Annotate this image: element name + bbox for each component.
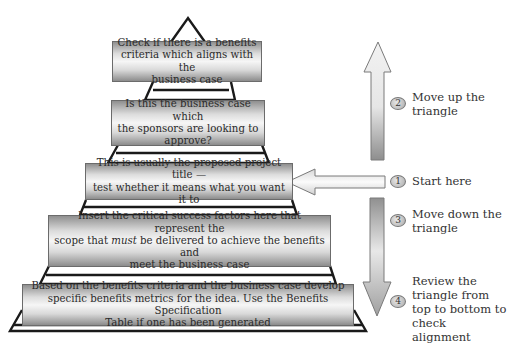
arrow-down-icon [363, 198, 391, 316]
pyramid-level-project-title: This is usually the proposed project tit… [85, 163, 293, 200]
step-label-review: Review the triangle from top to bottom t… [412, 274, 507, 344]
pyramid-level-business-case: Is this the business case which the spon… [111, 100, 265, 146]
step-label-move-down: Move down the triangle [412, 207, 502, 235]
level-text: Insert the critical success factors here… [52, 210, 327, 271]
pyramid-level-benefits-metrics: Based on the benefits criteria and the b… [22, 284, 354, 326]
level-text: Based on the benefits criteria and the b… [26, 280, 350, 329]
level-text: This is usually the proposed project tit… [89, 157, 289, 206]
pyramid-level-critical-success-factors: Insert the critical success factors here… [48, 215, 331, 267]
level-text: Check if there is a benefits criteria wh… [116, 37, 258, 86]
step-label-start-here: Start here [412, 174, 472, 188]
step-badge-3: 3 [390, 214, 406, 227]
level-text: Is this the business case which the spon… [115, 98, 261, 147]
step-label-move-up: Move up the triangle [412, 90, 485, 118]
benefits-pyramid-diagram: Check if there is a benefits criteria wh… [0, 0, 507, 352]
step-badge-2: 2 [390, 97, 406, 110]
step-badge-4: 4 [390, 295, 406, 308]
arrow-up-icon [364, 42, 391, 160]
level-text-emphasis: must [111, 235, 137, 246]
pyramid-level-benefits-criteria: Check if there is a benefits criteria wh… [112, 41, 262, 82]
level-text-post: be delivered to achieve the benefits and… [130, 235, 325, 271]
arrow-left-icon [287, 169, 385, 195]
step-badge-1: 1 [390, 175, 406, 188]
